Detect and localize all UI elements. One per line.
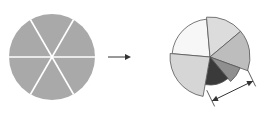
extension-line [207, 90, 215, 106]
slice-lower-left [170, 54, 210, 97]
arrow-head-icon [125, 54, 131, 60]
slice-upper-left [172, 19, 210, 57]
uniform-pie [9, 14, 95, 100]
spiral-pie [170, 17, 250, 96]
pie-transformation-diagram [0, 0, 264, 120]
transform-arrow [108, 54, 131, 60]
